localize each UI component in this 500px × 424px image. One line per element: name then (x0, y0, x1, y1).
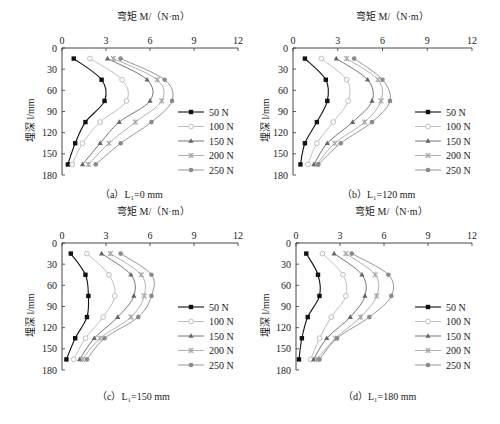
y-tick-label: 60 (47, 280, 57, 291)
chart-caption: （d）L₁=180 mm (343, 388, 416, 403)
legend-item: 50 N (415, 107, 466, 118)
y-tick-label: 30 (278, 64, 288, 75)
legend-item: 200 N (178, 345, 234, 356)
y-tick-label: 90 (47, 106, 57, 117)
legend-item: 200 N (415, 150, 471, 161)
series-250n (85, 251, 155, 361)
x-tick-label: 0 (60, 35, 65, 46)
y-tick-label: 0 (286, 238, 291, 249)
legend-label: 100 N (209, 121, 234, 132)
series-200n (314, 56, 383, 167)
legend-label: 150 N (209, 331, 234, 342)
y-tick-label: 30 (281, 259, 291, 270)
chart-panel-b: 036912030609012015018050 N100 N150 N200 … (250, 0, 500, 212)
chart-caption: （b）L₁=120 mm (342, 186, 415, 201)
x-tick-label: 9 (425, 35, 430, 46)
series-50n (66, 56, 107, 166)
legend-item: 100 N (415, 121, 471, 132)
y-tick-label: 60 (281, 280, 291, 291)
series-250n (93, 56, 174, 166)
legend-item: 50 N (178, 107, 229, 118)
x-tick-label: 6 (382, 230, 387, 241)
y-axis-label: 埋深 l/mm (257, 293, 272, 337)
y-tick-label: 150 (273, 148, 288, 159)
legend-label: 50 N (446, 302, 466, 313)
chart-caption: （c）L₁=150 mm (97, 388, 170, 403)
x-tick-label: 9 (192, 230, 197, 241)
chart-plot-a: 036912030609012015018050 N100 N150 N200 … (0, 0, 250, 212)
legend-label: 100 N (446, 121, 471, 132)
legend-label: 200 N (209, 345, 234, 356)
series-150n (77, 251, 136, 361)
legend-item: 100 N (415, 316, 471, 327)
x-tick-label: 12 (467, 35, 477, 46)
chart-panel-d: 036912030609012015018050 N100 N150 N200 … (250, 212, 500, 424)
y-tick-label: 180 (42, 170, 57, 181)
y-axis-label: 埋深 l/mm (257, 98, 272, 142)
x-tick-label: 3 (338, 230, 343, 241)
legend-item: 150 N (415, 331, 471, 342)
legend-item: 200 N (178, 150, 234, 161)
x-tick-label: 3 (104, 35, 109, 46)
x-tick-label: 12 (467, 230, 477, 241)
chart-panel-c: 036912030609012015018050 N100 N150 N200 … (0, 212, 250, 424)
legend-item: 50 N (415, 302, 466, 313)
series-100n (70, 56, 129, 167)
chart-caption: （a）L₁=0 mm (100, 186, 163, 201)
x-tick-label: 6 (148, 230, 153, 241)
legend-item: 50 N (178, 302, 229, 313)
y-tick-label: 150 (276, 343, 291, 354)
legend-item: 250 N (415, 165, 471, 176)
y-tick-label: 150 (42, 343, 57, 354)
legend: 50 N100 N150 N200 N250 N (178, 107, 234, 176)
y-tick-label: 30 (47, 259, 57, 270)
x-axis-label: 弯矩 M/（N·m） (356, 8, 429, 23)
x-tick-label: 12 (233, 230, 243, 241)
legend: 50 N100 N150 N200 N250 N (415, 302, 471, 371)
legend-label: 150 N (446, 136, 471, 147)
legend-item: 250 N (178, 360, 234, 371)
chart-panel-a: 036912030609012015018050 N100 N150 N200 … (0, 0, 250, 212)
y-tick-label: 90 (281, 301, 291, 312)
x-tick-label: 9 (426, 230, 431, 241)
legend-item: 250 N (178, 165, 234, 176)
x-tick-label: 6 (148, 35, 153, 46)
legend-item: 150 N (178, 331, 234, 342)
legend-label: 50 N (446, 107, 466, 118)
legend-label: 200 N (446, 345, 471, 356)
x-tick-label: 3 (104, 230, 109, 241)
series-150n (80, 56, 153, 166)
y-tick-label: 180 (276, 365, 291, 376)
series-250n (316, 56, 392, 166)
legend: 50 N100 N150 N200 N250 N (178, 302, 234, 371)
legend-item: 200 N (415, 345, 471, 356)
y-tick-label: 120 (42, 127, 57, 138)
legend: 50 N100 N150 N200 N250 N (415, 107, 471, 176)
legend-item: 150 N (178, 136, 234, 147)
y-tick-label: 120 (42, 322, 57, 333)
legend-label: 250 N (209, 165, 234, 176)
x-tick-label: 6 (380, 35, 385, 46)
y-tick-label: 180 (42, 365, 57, 376)
legend-label: 100 N (209, 316, 234, 327)
legend-item: 100 N (178, 316, 234, 327)
legend-label: 200 N (209, 150, 234, 161)
x-axis-label: 弯矩 M/（N·m） (117, 203, 190, 218)
y-tick-label: 180 (273, 170, 288, 181)
y-tick-label: 150 (42, 148, 57, 159)
x-tick-label: 0 (60, 230, 65, 241)
legend-label: 200 N (446, 150, 471, 161)
y-axis-label: 埋深 l/mm (22, 98, 37, 142)
legend-item: 150 N (415, 136, 471, 147)
series-200n (314, 251, 379, 362)
y-tick-label: 120 (273, 127, 288, 138)
legend-label: 250 N (209, 360, 234, 371)
legend-label: 100 N (446, 316, 471, 327)
legend-item: 250 N (415, 360, 471, 371)
y-tick-label: 0 (52, 43, 57, 54)
series-50n (64, 251, 90, 361)
legend-label: 150 N (209, 136, 234, 147)
legend-label: 250 N (446, 165, 471, 176)
y-tick-label: 120 (276, 322, 291, 333)
legend-label: 250 N (446, 360, 471, 371)
